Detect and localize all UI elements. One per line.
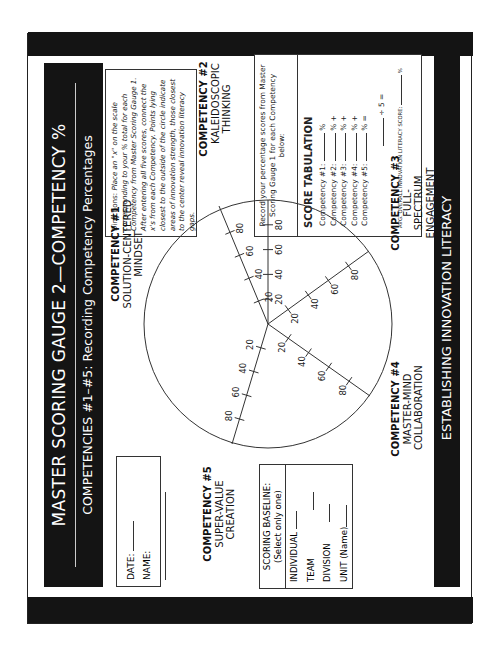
- svg-text:40: 40: [297, 356, 307, 367]
- svg-text:60: 60: [231, 387, 241, 398]
- competency-1-label: COMPETENCY #1 SOLUTION-CENTERED MINDSET: [110, 199, 145, 309]
- svg-text:40: 40: [254, 269, 264, 280]
- competency-5-label: COMPETENCY #5 SUPER-VALUE CREATION: [202, 465, 237, 563]
- competency-radar-gauge[interactable]: 2040608020406080204060802040608020406080: [28, 32, 473, 623]
- svg-text:20: 20: [290, 313, 300, 324]
- svg-text:80: 80: [274, 219, 284, 230]
- svg-text:60: 60: [274, 244, 284, 255]
- footer-band: ESTABLISHING INNOVATION LITERACY: [434, 49, 460, 587]
- competency-2-label: COMPETENCY #1 COMPETENCY #2 KALEIDOSCOPI…: [198, 59, 233, 159]
- svg-text:80: 80: [235, 223, 245, 234]
- svg-text:40: 40: [274, 269, 284, 280]
- footer-text: ESTABLISHING INNOVATION LITERACY: [439, 196, 454, 440]
- svg-text:20: 20: [264, 291, 274, 302]
- svg-text:20: 20: [274, 294, 284, 305]
- competency-number: COMPETENCY #4: [390, 361, 401, 456]
- competency-number: COMPETENCY #2: [198, 61, 209, 156]
- svg-text:80: 80: [350, 269, 360, 280]
- competency-number: COMPETENCY #5: [202, 466, 213, 561]
- worksheet-page: MASTER SCORING GAUGE 2—COMPETENCY % COMP…: [27, 33, 472, 624]
- competency-number: COMPETENCY #3: [390, 155, 401, 250]
- competency-name: FULL-SPECTRUM ENGAGEMENT: [402, 163, 437, 243]
- svg-text:80: 80: [224, 410, 234, 421]
- svg-text:80: 80: [338, 385, 348, 396]
- competency-name: MASTER-MIND COLLABORATION: [402, 368, 425, 450]
- svg-text:60: 60: [317, 370, 327, 381]
- competency-3-label: COMPETENCY #3 FULL-SPECTRUM ENGAGEMENT: [390, 153, 436, 253]
- competency-name: KALEIDOSCOPIC THINKING: [210, 74, 233, 144]
- svg-text:40: 40: [238, 363, 248, 374]
- svg-text:20: 20: [277, 342, 287, 353]
- competency-name: SOLUTION-CENTERED MINDSET: [122, 200, 145, 309]
- svg-text:60: 60: [330, 284, 340, 295]
- svg-text:20: 20: [245, 339, 255, 350]
- svg-text:60: 60: [245, 246, 255, 257]
- competency-name: SUPER-VALUE CREATION: [214, 479, 237, 549]
- svg-text:40: 40: [310, 298, 320, 309]
- competency-number: COMPETENCY #1: [110, 206, 121, 301]
- competency-4-label: COMPETENCY #4 MASTER-MIND COLLABORATION: [390, 357, 425, 461]
